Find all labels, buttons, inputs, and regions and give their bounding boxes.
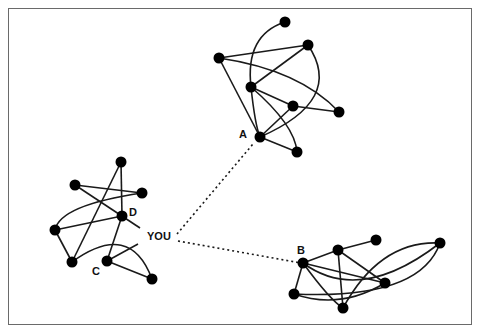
weak-tie-you-a	[177, 144, 253, 234]
node-d	[117, 211, 128, 222]
label-a: A	[239, 128, 247, 140]
weak-ties	[177, 144, 301, 263]
network-diagram: A D C B YOU	[0, 0, 480, 334]
label-c: C	[92, 265, 100, 277]
label-b: B	[297, 244, 305, 256]
label-you: YOU	[147, 230, 171, 242]
weak-tie-you-b	[178, 241, 301, 263]
node-a	[255, 132, 266, 143]
label-d: D	[129, 206, 137, 218]
cluster-b-edges	[294, 240, 440, 308]
node-c	[102, 256, 113, 267]
cluster-a-edges	[219, 22, 339, 152]
node-b	[298, 258, 309, 269]
